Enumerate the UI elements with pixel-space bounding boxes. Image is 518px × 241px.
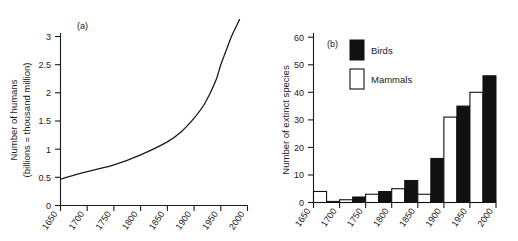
- panel-a-xtick-1950: 1950: [200, 209, 220, 231]
- panel-b-y-ticklabels: 0 10 20 30 40 50 60: [294, 33, 304, 208]
- panel-b: 0 10 20 30 40 50 60 Number of extinct sp…: [280, 33, 496, 229]
- panel-b-y-ticks: [308, 37, 314, 202]
- bar-birds-1800-1850: [405, 180, 418, 202]
- panel-b-xtick-1700: 1700: [319, 206, 339, 228]
- panel-b-ytick-40: 40: [294, 88, 304, 98]
- panel-b-xtick-1800: 1800: [371, 206, 391, 228]
- panel-a-xtick-1650: 1650: [40, 209, 60, 231]
- panel-a-letter: (a): [77, 21, 88, 31]
- panel-a: 0 0.5 1 1.5 2 2.5 3 Number of humans (bi…: [8, 20, 248, 232]
- figure-svg: 0 0.5 1 1.5 2 2.5 3 Number of humans (bi…: [0, 0, 518, 241]
- panel-a-x-ticks: [61, 206, 248, 212]
- bar-mammals-1800-1850: [392, 189, 405, 203]
- panel-b-legend: Birds Mammals: [350, 40, 412, 89]
- panel-a-ytick-2: 2: [46, 88, 51, 98]
- panel-b-ytick-60: 60: [294, 33, 304, 43]
- figure-two-panel-population-extinction: 0 0.5 1 1.5 2 2.5 3 Number of humans (bi…: [0, 0, 518, 241]
- bar-birds-1850-1900: [431, 158, 444, 202]
- panel-b-x-ticks: [314, 203, 497, 209]
- panel-b-xtick-1900: 1900: [423, 206, 443, 228]
- bar-birds-1950-2000: [483, 76, 496, 203]
- panel-b-ylabel: Number of extinct species: [280, 65, 291, 175]
- panel-b-xtick-1750: 1750: [345, 206, 365, 228]
- panel-a-ytick-2_5: 2.5: [38, 60, 51, 70]
- panel-a-x-ticklabels: 1650 1700 1750 1800 1850 1900 1950 2000: [40, 209, 247, 231]
- legend-label-birds: Birds: [371, 45, 393, 56]
- panel-a-ytick-0: 0: [46, 201, 51, 211]
- legend-swatch-mammals: [350, 69, 364, 89]
- panel-a-population-curve: [61, 20, 240, 179]
- legend-label-mammals: Mammals: [371, 74, 412, 85]
- panel-a-y-ticks: [55, 37, 61, 206]
- panel-b-ytick-20: 20: [294, 143, 304, 153]
- panel-a-xtick-2000: 2000: [227, 209, 247, 231]
- panel-a-xtick-1800: 1800: [120, 209, 140, 231]
- panel-a-y-ticklabels: 0 0.5 1 1.5 2 2.5 3: [38, 32, 51, 211]
- bar-mammals-1750-1800: [366, 194, 379, 202]
- panel-b-xtick-2000: 2000: [475, 206, 495, 228]
- panel-b-ytick-0: 0: [299, 198, 304, 208]
- panel-b-ytick-30: 30: [294, 115, 304, 125]
- bar-mammals-1950-2000: [470, 92, 483, 202]
- panel-b-bar-group: [314, 76, 497, 203]
- panel-a-ylabel-line1: Number of humans: [8, 79, 19, 160]
- panel-b-xtick-1950: 1950: [449, 206, 469, 228]
- panel-a-y-axis-label: Number of humans (billions = thousand mi…: [8, 63, 32, 178]
- panel-b-x-ticklabels: 1650 1700 1750 1800 1850 1900 1950 2000: [293, 206, 495, 228]
- bar-mammals-1650-1700: [314, 191, 327, 202]
- panel-a-ytick-1_5: 1.5: [38, 116, 51, 126]
- bar-mammals-1850-1900: [418, 194, 431, 202]
- legend-swatch-birds: [350, 40, 364, 60]
- panel-a-xtick-1850: 1850: [147, 209, 167, 231]
- bar-birds-1650-1700: [327, 201, 340, 202]
- panel-a-ylabel-line2: (billions = thousand million): [21, 63, 32, 178]
- panel-b-ytick-10: 10: [294, 170, 304, 180]
- panel-a-xtick-1900: 1900: [174, 209, 194, 231]
- panel-a-ytick-1: 1: [46, 145, 51, 155]
- panel-b-ytick-50: 50: [294, 60, 304, 70]
- bar-mammals-1700-1750: [340, 200, 353, 203]
- panel-a-xtick-1700: 1700: [67, 209, 87, 231]
- panel-b-xtick-1850: 1850: [397, 206, 417, 228]
- panel-b-letter: (b): [327, 39, 338, 49]
- bar-birds-1900-1950: [457, 106, 470, 202]
- panel-a-xtick-1750: 1750: [93, 209, 113, 231]
- bar-birds-1700-1750: [353, 197, 366, 203]
- panel-a-ytick-0_5: 0.5: [38, 173, 51, 183]
- panel-a-ytick-3: 3: [46, 32, 51, 42]
- panel-b-xtick-1650: 1650: [293, 206, 313, 228]
- bar-birds-1750-1800: [379, 191, 392, 202]
- bar-mammals-1900-1950: [444, 117, 457, 202]
